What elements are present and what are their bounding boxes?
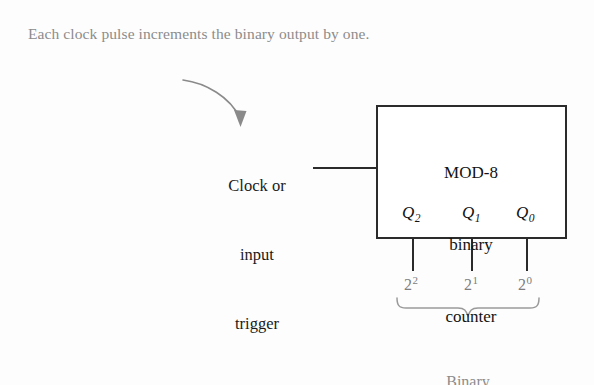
output-weight-2e2-exponent: 2 — [413, 274, 419, 286]
output-weight-2e1-exponent: 1 — [473, 274, 479, 286]
clock-input-label-line3: trigger — [196, 312, 318, 335]
clock-input-label: Clock or input trigger — [196, 128, 318, 381]
clock-input-label-line2: input — [196, 243, 318, 266]
binary-output-caption: Binary output — [398, 322, 538, 385]
counter-box-title-line2: binary — [378, 233, 564, 257]
output-weight-2e1-base: 2 — [464, 276, 472, 293]
binary-output-caption-line1: Binary — [398, 370, 538, 385]
output-label-q1-subscript: 1 — [475, 212, 481, 224]
output-label-q2: Q2 — [402, 203, 420, 223]
output-label-q2-letter: Q — [402, 203, 414, 222]
output-label-q0-letter: Q — [516, 203, 528, 222]
output-weight-2e2-base: 2 — [404, 276, 412, 293]
output-weight-2e0-exponent: 0 — [527, 274, 533, 286]
output-label-q2-subscript: 2 — [415, 212, 421, 224]
curved-annotation-arrow — [183, 80, 247, 127]
annotation-note: Each clock pulse increments the binary o… — [28, 22, 208, 46]
output-label-q0: Q0 — [516, 203, 534, 223]
counter-box-title-line1: MOD-8 — [378, 161, 564, 185]
output-weight-2e0: 20 — [518, 276, 532, 294]
output-weight-2e2: 22 — [404, 276, 418, 294]
figure-canvas: Each clock pulse increments the binary o… — [0, 0, 594, 385]
output-weight-2e1: 21 — [464, 276, 478, 294]
output-weight-2e0-base: 2 — [518, 276, 526, 293]
output-label-q1-letter: Q — [462, 203, 474, 222]
output-label-q0-subscript: 0 — [529, 212, 535, 224]
output-label-q1: Q1 — [462, 203, 480, 223]
clock-input-label-line1: Clock or — [196, 174, 318, 197]
